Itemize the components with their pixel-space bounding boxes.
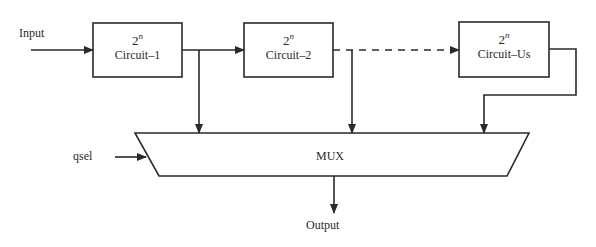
block-circuit-2-label: Circuit–2 [244, 48, 333, 63]
block-circuit-1-text: 2n Circuit–1 [93, 29, 182, 63]
block-circuit-us-power: 2n [459, 28, 549, 47]
block-circuit-2-text: 2n Circuit–2 [244, 29, 333, 63]
mux-label: MUX [316, 149, 344, 163]
input-label: Input [19, 26, 44, 40]
block-circuit-us-label: Circuit–Us [459, 47, 549, 62]
output-label: Output [306, 218, 339, 232]
block-circuit-1-label: Circuit–1 [93, 48, 182, 63]
block-circuit-2-power: 2n [244, 29, 333, 48]
block-circuit-us-text: 2n Circuit–Us [459, 28, 549, 62]
qsel-label: qsel [73, 149, 92, 163]
block-circuit-1-power: 2n [93, 29, 182, 48]
